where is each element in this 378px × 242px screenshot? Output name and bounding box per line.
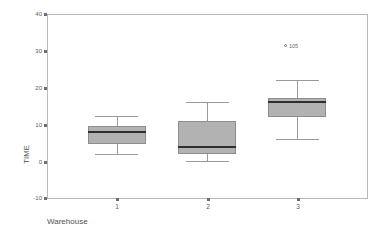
- y-tick-label-30: 30: [35, 48, 42, 54]
- box1-lower-whisker-cap: [95, 154, 138, 155]
- box1-median-line: [88, 131, 146, 133]
- y-tick-label-20: 20: [35, 85, 42, 91]
- box1-lower-whisker: [117, 144, 118, 154]
- box2-median-line: [178, 146, 236, 148]
- y-tick-mark-30: [44, 50, 47, 53]
- boxplot-figure: 40 30 20 10 0 -10 TIME 1 2 3 Warehouse 1…: [0, 0, 378, 242]
- box2-lower-whisker: [207, 154, 208, 161]
- x-tick-label-2: 2: [198, 203, 218, 210]
- y-axis-title: TIME: [22, 127, 31, 183]
- box2-lower-whisker-cap: [186, 161, 229, 162]
- box2-quartile-box: [178, 121, 236, 154]
- y-tick-mark-0: [44, 161, 47, 164]
- box1-upper-whisker: [117, 116, 118, 126]
- x-tick-mark-3: [297, 198, 300, 201]
- x-tick-label-3: 3: [288, 203, 308, 210]
- box3-outlier-marker: [284, 44, 287, 47]
- x-tick-label-1: 1: [107, 203, 127, 210]
- box3-median-line: [268, 101, 326, 103]
- box3-outlier-label: 105: [289, 43, 298, 49]
- y-tick-mark-20: [44, 87, 47, 90]
- y-tick-label-neg10: -10: [33, 195, 42, 201]
- x-axis-title: Warehouse: [47, 217, 88, 227]
- box2-upper-whisker: [207, 102, 208, 121]
- box1-quartile-box: [88, 126, 146, 144]
- y-tick-label-0: 0: [39, 159, 42, 165]
- y-tick-mark-neg10: [44, 197, 47, 200]
- y-tick-label-10: 10: [35, 122, 42, 128]
- y-tick-mark-10: [44, 124, 47, 127]
- x-tick-mark-1: [116, 198, 119, 201]
- box3-lower-whisker: [297, 117, 298, 139]
- y-tick-mark-40: [44, 13, 47, 16]
- box3-upper-whisker: [297, 80, 298, 98]
- box3-lower-whisker-cap: [276, 139, 319, 140]
- y-tick-label-40: 40: [35, 11, 42, 17]
- x-tick-mark-2: [207, 198, 210, 201]
